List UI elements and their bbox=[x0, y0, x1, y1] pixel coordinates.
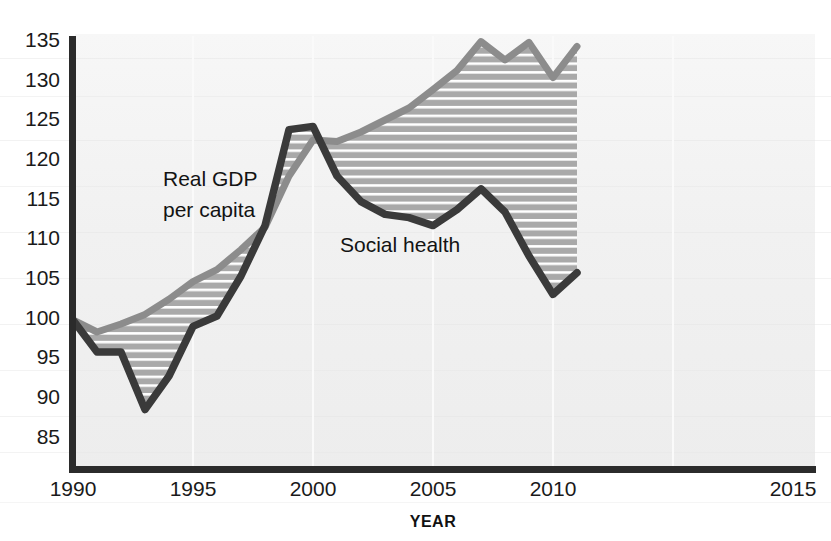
top-crop-artifact bbox=[0, 0, 831, 9]
y-tick-130: 130 bbox=[25, 68, 60, 91]
annotation-gdp-line-1: Real GDP bbox=[163, 167, 258, 190]
annotation-social-health: Social health bbox=[340, 233, 460, 256]
x-tick-2010: 2010 bbox=[530, 477, 577, 500]
y-tick-110: 110 bbox=[27, 226, 60, 249]
x-tick-2005: 2005 bbox=[410, 477, 457, 500]
y-tick-105: 105 bbox=[25, 266, 60, 289]
x-tick-2000: 2000 bbox=[290, 477, 337, 500]
x-tick-2015: 2015 bbox=[770, 477, 817, 500]
annotation-gdp-line-2: per capita bbox=[163, 198, 256, 221]
x-tick-1990: 1990 bbox=[50, 477, 97, 500]
chart-figure: 135 130 125 120 115 110 105 100 95 90 85… bbox=[0, 0, 831, 541]
x-axis-line bbox=[69, 466, 816, 473]
x-axis-title: YEAR bbox=[410, 513, 456, 530]
y-axis-line bbox=[69, 36, 76, 473]
y-tick-95: 95 bbox=[37, 345, 60, 368]
y-tick-125: 125 bbox=[25, 107, 60, 130]
y-tick-90: 90 bbox=[37, 385, 60, 408]
line-chart: 135 130 125 120 115 110 105 100 95 90 85… bbox=[0, 0, 831, 541]
y-tick-120: 120 bbox=[25, 147, 60, 170]
y-tick-100: 100 bbox=[25, 306, 60, 329]
y-tick-85: 85 bbox=[37, 425, 60, 448]
y-tick-115: 115 bbox=[27, 187, 60, 210]
y-tick-135: 135 bbox=[25, 28, 60, 51]
x-tick-1995: 1995 bbox=[170, 477, 217, 500]
